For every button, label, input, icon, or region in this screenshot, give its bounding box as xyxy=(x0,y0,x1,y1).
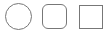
rounded-square-shape-option[interactable] xyxy=(42,4,67,29)
circle-shape-option[interactable] xyxy=(5,3,32,30)
square-shape-option[interactable] xyxy=(79,5,103,29)
